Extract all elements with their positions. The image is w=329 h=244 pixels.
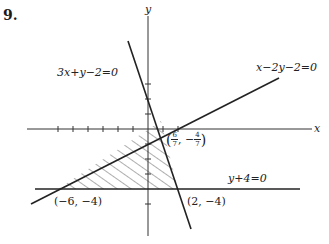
y-axis: [145, 16, 151, 236]
coordinate-diagram: [0, 0, 329, 244]
vertex-label-6-7-neg4-7: (67, −47): [166, 131, 206, 148]
equation-label-y-plus-4: y+4=0: [228, 172, 267, 185]
frac-y-sign: −: [185, 133, 194, 146]
equation-label-x-minus-2y: x−2y−2=0: [256, 61, 317, 74]
frac-x-denominator: 7: [171, 140, 177, 148]
x-axis-label: x: [314, 122, 320, 135]
vertex-label-2-neg4: (2, −4): [187, 195, 226, 208]
frac-x-numerator: 6: [171, 131, 177, 140]
equation-label-3x-plus-y: 3x+y−2=0: [57, 66, 118, 79]
vertex-label-neg6-neg4: (−6, −4): [54, 195, 102, 208]
y-axis-label: y: [145, 3, 151, 16]
